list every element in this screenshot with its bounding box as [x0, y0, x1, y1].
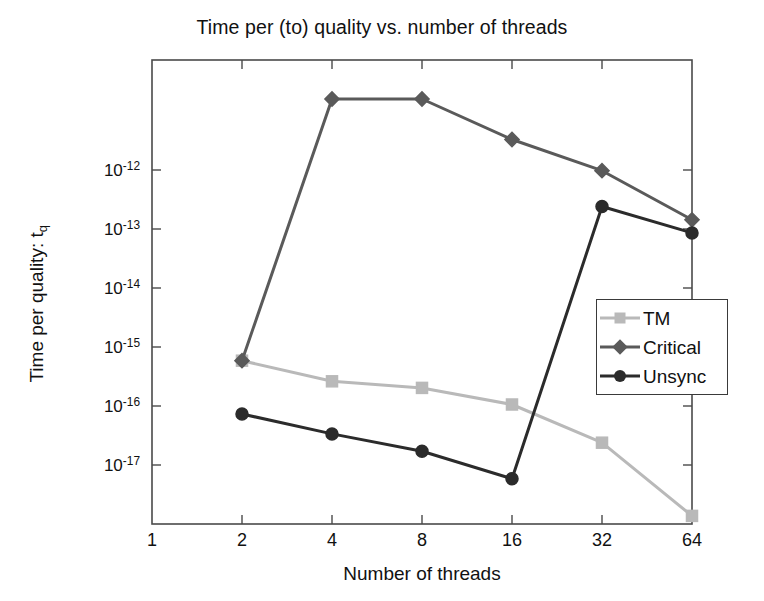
square-marker-icon — [417, 382, 428, 393]
circle-marker-icon — [326, 428, 338, 440]
legend-label-unsync: Unsync — [643, 367, 706, 386]
legend[interactable]: TM Critical Unsync — [596, 299, 728, 395]
diamond-marker-icon — [325, 92, 339, 106]
legend-swatch-tm — [597, 307, 643, 329]
circle-marker-icon — [686, 227, 698, 239]
square-marker-icon — [687, 510, 698, 521]
legend-swatch-critical — [597, 336, 643, 358]
square-marker-icon — [597, 437, 608, 448]
square-marker-icon — [507, 399, 518, 410]
diamond-marker-icon — [505, 132, 519, 146]
diamond-marker-icon — [415, 92, 429, 106]
diamond-marker-icon — [685, 213, 699, 227]
square-marker-icon — [327, 376, 338, 387]
legend-label-critical: Critical — [643, 338, 701, 357]
circle-marker-icon — [506, 473, 518, 485]
legend-item-tm[interactable]: TM — [597, 304, 670, 332]
legend-swatch-unsync — [597, 365, 643, 387]
legend-label-tm: TM — [643, 309, 670, 328]
figure: Time per (to) quality vs. number of thre… — [0, 0, 764, 601]
square-marker-icon — [615, 313, 626, 324]
legend-item-critical[interactable]: Critical — [597, 333, 701, 361]
diamond-marker-icon — [595, 164, 609, 178]
circle-marker-icon — [236, 408, 248, 420]
circle-marker-icon — [416, 445, 428, 457]
diamond-marker-icon — [612, 339, 628, 355]
circle-marker-icon — [596, 201, 608, 213]
legend-item-unsync[interactable]: Unsync — [597, 362, 706, 390]
circle-marker-icon — [614, 370, 626, 382]
